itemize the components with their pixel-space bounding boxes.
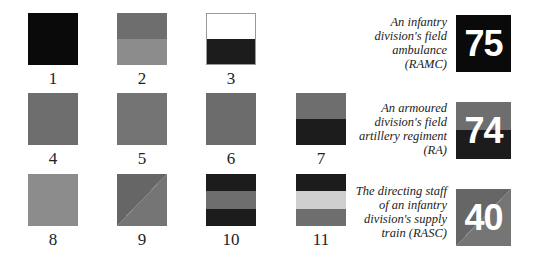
caption-line: The directing staff	[337, 184, 447, 198]
sample-square-2	[117, 13, 167, 65]
caption-line: division's field	[337, 29, 447, 43]
caption-line: artillery regiment	[337, 129, 447, 143]
example-caption-74: An armoured division's field artillery r…	[337, 101, 447, 157]
caption-line: division's supply	[337, 212, 447, 226]
caption-line: An armoured	[337, 101, 447, 115]
example-badge-40: 40	[456, 189, 511, 246]
sample-square-9	[117, 174, 167, 226]
sample-square-5	[117, 93, 167, 145]
sample-label-4: 4	[28, 150, 78, 168]
caption-line: (RA)	[337, 143, 447, 157]
example-caption-40: The directing staff of an infantry divis…	[337, 184, 447, 240]
sample-label-1: 1	[28, 70, 78, 88]
caption-line: ambulance	[337, 43, 447, 57]
caption-line: (RAMC)	[337, 57, 447, 71]
sample-label-6: 6	[206, 150, 256, 168]
sample-square-10	[206, 174, 256, 226]
caption-line: of an infantry	[337, 198, 447, 212]
sample-label-8: 8	[28, 231, 78, 249]
sample-square-3	[206, 13, 256, 65]
caption-line: An infantry	[337, 15, 447, 29]
sample-label-9: 9	[117, 231, 167, 249]
sample-label-10: 10	[206, 231, 256, 249]
badge-number: 74	[456, 102, 511, 159]
sample-label-5: 5	[117, 150, 167, 168]
badge-number: 75	[456, 15, 511, 72]
caption-line: division's field	[337, 115, 447, 129]
sample-label-2: 2	[117, 70, 167, 88]
sample-square-6	[206, 93, 256, 145]
sample-square-1	[28, 13, 78, 65]
example-badge-75: 75	[456, 15, 511, 72]
sample-square-8	[28, 174, 78, 226]
sample-square-4	[28, 93, 78, 145]
example-caption-75: An infantry division's field ambulance (…	[337, 15, 447, 71]
example-badge-74: 74	[456, 102, 511, 159]
sample-label-3: 3	[206, 70, 256, 88]
caption-line: train (RASC)	[337, 226, 447, 240]
badge-number: 40	[456, 189, 511, 246]
